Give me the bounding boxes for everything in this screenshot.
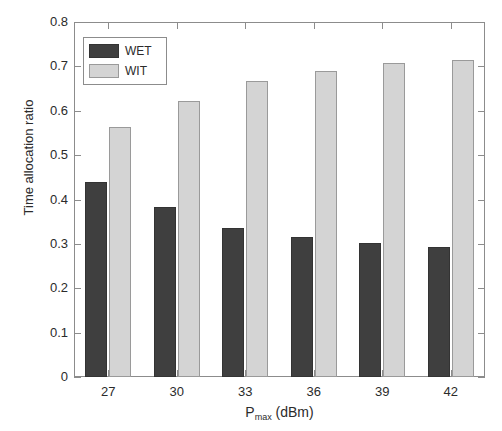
bar-wit-39 xyxy=(383,63,405,377)
y-axis-tick xyxy=(74,288,81,289)
legend-swatch-wet-icon xyxy=(89,44,119,58)
bar-wit-27 xyxy=(109,127,131,377)
legend-swatch-wit-icon xyxy=(89,64,119,78)
y-axis-tick-label: 0.8 xyxy=(18,15,68,28)
y-axis-tick xyxy=(74,244,81,245)
bar-wit-30 xyxy=(178,101,200,377)
y-axis-tick-right xyxy=(478,111,485,112)
x-axis-tick-top xyxy=(245,22,246,29)
y-axis-tick xyxy=(74,200,81,201)
y-axis-tick-right xyxy=(478,333,485,334)
x-axis-tick-label: 30 xyxy=(157,385,197,398)
bar-chart-figure: 00.10.20.30.40.50.60.70.8273033363942 Ti… xyxy=(0,0,502,431)
legend-item-wet: WET xyxy=(89,43,152,59)
bar-wet-39 xyxy=(359,243,381,377)
y-axis-tick-right xyxy=(478,200,485,201)
x-axis-tick-top xyxy=(108,22,109,29)
x-axis-label-base: P xyxy=(245,404,254,420)
bar-wet-36 xyxy=(291,237,313,377)
y-axis-tick xyxy=(74,22,81,23)
y-axis-tick xyxy=(74,333,81,334)
x-axis-tick-top xyxy=(314,22,315,29)
bar-wit-36 xyxy=(315,71,337,377)
y-axis-tick-right xyxy=(478,22,485,23)
x-axis-tick-label: 39 xyxy=(362,385,402,398)
x-axis-label-subscript: max xyxy=(255,412,272,422)
bar-wet-30 xyxy=(154,207,176,377)
y-axis-tick-label: 0.2 xyxy=(18,281,68,294)
x-axis-label-unit: (dBm) xyxy=(276,404,314,420)
y-axis-tick-label: 0.7 xyxy=(18,59,68,72)
y-axis-tick xyxy=(74,377,81,378)
y-axis-tick-label: 0 xyxy=(18,370,68,383)
bar-wit-33 xyxy=(246,81,268,377)
legend-item-wit: WIT xyxy=(89,63,147,79)
y-axis-tick-right xyxy=(478,288,485,289)
y-axis-tick-right xyxy=(478,244,485,245)
bar-wit-42 xyxy=(452,60,474,377)
legend-label-wet: WET xyxy=(125,45,152,57)
x-axis-tick-top xyxy=(451,22,452,29)
x-axis-tick-label: 36 xyxy=(294,385,334,398)
chart-legend: WET WIT xyxy=(83,37,167,85)
bar-wet-27 xyxy=(85,182,107,377)
y-axis-tick-right xyxy=(478,155,485,156)
y-axis-tick-right xyxy=(478,66,485,67)
legend-label-wit: WIT xyxy=(125,65,147,77)
x-axis-label: Pmax (dBm) xyxy=(74,404,485,420)
y-axis-label: Time allocation ratio xyxy=(21,78,36,238)
y-axis-tick-label: 0.3 xyxy=(18,237,68,250)
x-axis-tick-top xyxy=(382,22,383,29)
y-axis-tick xyxy=(74,155,81,156)
bar-wet-42 xyxy=(428,247,450,377)
y-axis-tick xyxy=(74,66,81,67)
y-axis-tick-right xyxy=(478,377,485,378)
y-axis-tick-label: 0.1 xyxy=(18,326,68,339)
x-axis-tick-label: 42 xyxy=(431,385,471,398)
x-axis-tick-label: 27 xyxy=(88,385,128,398)
y-axis-tick xyxy=(74,111,81,112)
x-axis-tick-top xyxy=(177,22,178,29)
x-axis-tick-label: 33 xyxy=(225,385,265,398)
bar-wet-33 xyxy=(222,228,244,377)
